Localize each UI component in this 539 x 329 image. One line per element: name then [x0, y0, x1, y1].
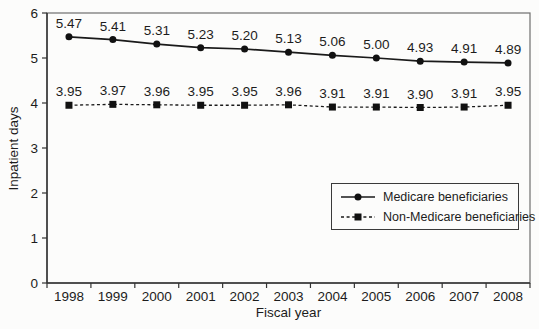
non-medicare-marker — [329, 104, 336, 111]
data-label: 4.91 — [451, 41, 477, 56]
y-tick-label: 6 — [30, 6, 38, 21]
data-label: 3.91 — [363, 86, 389, 101]
data-label: 3.90 — [407, 87, 433, 102]
line-chart: 0123456199819992000200120022003200420052… — [0, 0, 539, 329]
x-tick-label: 1999 — [98, 289, 128, 304]
x-tick-label: 2006 — [405, 289, 435, 304]
y-tick-label: 1 — [30, 231, 38, 246]
data-label: 5.23 — [188, 27, 214, 42]
x-axis-title: Fiscal year — [47, 305, 530, 320]
data-label: 3.96 — [275, 84, 301, 99]
medicare-marker — [65, 33, 72, 40]
data-label: 3.95 — [495, 84, 521, 99]
medicare-marker — [505, 59, 512, 66]
y-tick-label: 2 — [30, 186, 38, 201]
medicare-marker — [417, 58, 424, 65]
data-label: 5.13 — [275, 31, 301, 46]
non-medicare-marker — [109, 101, 116, 108]
data-label: 5.41 — [100, 19, 126, 34]
non-medicare-marker — [461, 104, 468, 111]
legend-label-medicare: Medicare beneficiaries — [383, 190, 508, 204]
non-medicare-marker — [241, 102, 248, 109]
data-label: 5.31 — [144, 23, 170, 38]
data-label: 3.91 — [451, 86, 477, 101]
data-label: 5.47 — [56, 16, 82, 31]
legend-item-medicare: Medicare beneficiaries — [340, 189, 518, 205]
data-label: 4.89 — [495, 42, 521, 57]
medicare-marker — [461, 59, 468, 66]
medicare-marker — [373, 55, 380, 62]
x-tick-label: 2000 — [142, 289, 172, 304]
legend-item-non-medicare: Non-Medicare beneficiaries — [340, 209, 518, 225]
x-tick-label: 1998 — [54, 289, 84, 304]
legend: Medicare beneficiaries Non-Medicare bene… — [331, 183, 519, 230]
medicare-marker — [197, 44, 204, 51]
non-medicare-marker — [65, 102, 72, 109]
legend-label-non-medicare: Non-Medicare beneficiaries — [383, 210, 535, 224]
dashed-line-square-marker-icon — [340, 210, 376, 224]
y-tick-label: 0 — [30, 276, 38, 291]
medicare-marker — [285, 49, 292, 56]
non-medicare-marker — [505, 102, 512, 109]
non-medicare-marker — [373, 104, 380, 111]
medicare-marker — [241, 46, 248, 53]
non-medicare-marker — [197, 102, 204, 109]
y-tick-label: 3 — [30, 141, 38, 156]
non-medicare-marker — [417, 104, 424, 111]
x-tick-label: 2007 — [449, 289, 479, 304]
data-label: 3.95 — [231, 84, 257, 99]
data-label: 3.95 — [56, 84, 82, 99]
medicare-marker — [153, 41, 160, 48]
x-tick-label: 2003 — [273, 289, 303, 304]
x-tick-label: 2005 — [361, 289, 391, 304]
medicare-marker — [329, 52, 336, 59]
medicare-marker — [109, 36, 116, 43]
solid-line-circle-marker-icon — [340, 190, 376, 204]
x-tick-label: 2004 — [317, 289, 348, 304]
data-label: 3.95 — [188, 84, 214, 99]
data-label: 5.20 — [231, 28, 257, 43]
data-label: 3.97 — [100, 83, 126, 98]
x-tick-label: 2002 — [230, 289, 260, 304]
data-label: 3.91 — [319, 86, 345, 101]
plot-area: 0123456199819992000200120022003200420052… — [0, 0, 539, 329]
x-tick-label: 2008 — [493, 289, 523, 304]
y-tick-label: 4 — [30, 96, 38, 111]
non-medicare-marker — [285, 101, 292, 108]
y-tick-label: 5 — [30, 51, 38, 66]
y-axis-title: Inpatient days — [6, 89, 21, 209]
data-label: 5.06 — [319, 34, 345, 49]
non-medicare-marker — [153, 101, 160, 108]
data-label: 3.96 — [144, 84, 170, 99]
data-label: 4.93 — [407, 40, 433, 55]
x-tick-label: 2001 — [186, 289, 216, 304]
data-label: 5.00 — [363, 37, 389, 52]
